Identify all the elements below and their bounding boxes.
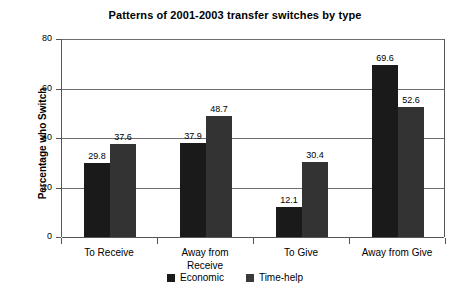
x-tick-mark (157, 238, 158, 244)
bar-time-help-to-give (302, 162, 328, 237)
bar-economic-away-from-give (372, 65, 398, 237)
bar-value-label: 52.6 (391, 95, 431, 105)
bar-time-help-away-from-receive (206, 116, 232, 237)
x-category-label: Away fromReceive (157, 246, 253, 272)
x-category-label-line: To Receive (61, 246, 157, 259)
bar-economic-to-give (276, 207, 302, 237)
bar-chart-figure: Patterns of 2001-2003 transfer switches … (0, 0, 470, 295)
x-tick-mark (61, 238, 62, 244)
x-category-label: To Give (253, 246, 349, 259)
x-tick-mark (349, 238, 350, 244)
gridline (62, 39, 444, 40)
y-tick-label: 20 (6, 182, 52, 192)
x-tick-mark (445, 238, 446, 244)
bar-economic-to-receive (84, 163, 110, 237)
plot-area: 29.837.637.948.712.130.469.652.6 (61, 39, 445, 237)
x-category-label-line: Receive (157, 259, 253, 272)
y-tick-label: 40 (6, 132, 52, 142)
legend-swatch-time-help-icon (246, 274, 254, 282)
bar-value-label: 37.6 (103, 132, 143, 142)
legend-item-economic: Economic (167, 272, 224, 283)
y-tick-label: 0 (6, 231, 52, 241)
y-tick-label: 60 (6, 83, 52, 93)
y-tick-label: 80 (6, 33, 52, 43)
x-category-label: To Receive (61, 246, 157, 259)
bar-time-help-to-receive (110, 144, 136, 237)
x-category-label: Away from Give (349, 246, 445, 259)
x-tick-mark (253, 238, 254, 244)
legend-label: Economic (180, 272, 224, 283)
bar-time-help-away-from-give (398, 107, 424, 237)
x-category-label-line: To Give (253, 246, 349, 259)
x-category-label-line: Away from (157, 246, 253, 259)
bar-value-label: 48.7 (199, 104, 239, 114)
chart-legend: EconomicTime-help (0, 272, 470, 283)
bar-value-label: 69.6 (365, 53, 405, 63)
legend-item-time-help: Time-help (246, 272, 303, 283)
x-category-label-line: Away from Give (349, 246, 445, 259)
bar-value-label: 30.4 (295, 150, 335, 160)
legend-label: Time-help (259, 272, 303, 283)
chart-title: Patterns of 2001-2003 transfer switches … (0, 9, 470, 21)
bar-economic-away-from-receive (180, 143, 206, 237)
legend-swatch-economic-icon (167, 274, 175, 282)
